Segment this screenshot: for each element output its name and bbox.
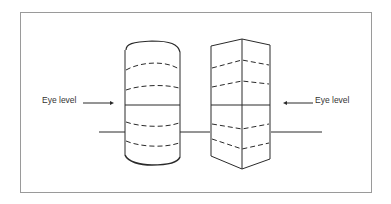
arrow-head-right-icon: [110, 101, 114, 105]
prism-line-below-2: [212, 139, 269, 149]
left-eye-level-label: Eye level: [42, 95, 77, 105]
cylinder-bottom-edge: [125, 155, 180, 165]
prism-line-above-1: [212, 60, 269, 68]
cylinder-line-below-2: [126, 141, 179, 146]
right-eye-level-label: Eye level: [315, 95, 350, 105]
cylinder: [125, 41, 180, 165]
cylinder-line-above-1: [126, 63, 179, 70]
prism-top-right-edge: [242, 39, 270, 45]
left-eye-level-arrow: [83, 101, 114, 105]
rectangular-prism: [211, 39, 270, 169]
prism-bottom-left-edge: [211, 156, 242, 169]
cylinder-line-above-2: [126, 86, 179, 90]
cylinder-top-edge: [126, 41, 180, 52]
prism-line-above-2: [212, 81, 269, 87]
eye-level-diagram: Eye level Eye level: [0, 0, 391, 204]
prism-top-left-edge: [211, 39, 242, 46]
arrow-head-left-icon: [283, 101, 287, 105]
cylinder-line-below-1: [126, 122, 179, 126]
prism-bottom-right-edge: [242, 159, 270, 169]
right-eye-level-arrow: [283, 101, 313, 105]
prism-line-below-1: [212, 124, 269, 129]
